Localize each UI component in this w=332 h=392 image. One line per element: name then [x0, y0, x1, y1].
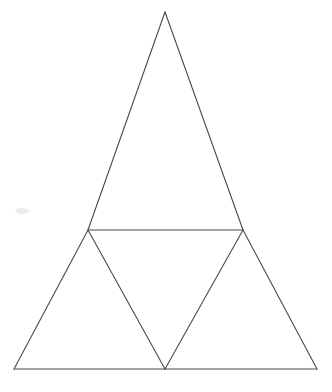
- diagram-canvas: [0, 0, 332, 392]
- scan-artifact-layer: [15, 208, 29, 214]
- triangle-diagram: [0, 0, 332, 392]
- scan-smudge: [15, 208, 29, 214]
- diagram-background: [0, 0, 332, 392]
